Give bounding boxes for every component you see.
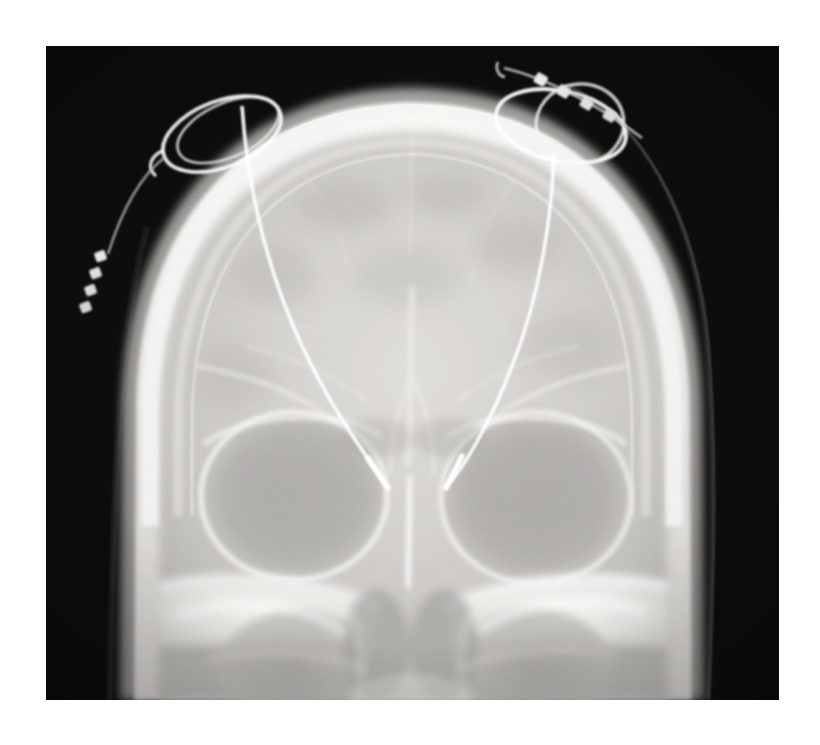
radiograph-image (46, 46, 779, 700)
radiograph-page: X-ray radiograph AP skull (anteroposteri… (0, 0, 820, 745)
xray-canvas (46, 46, 779, 700)
